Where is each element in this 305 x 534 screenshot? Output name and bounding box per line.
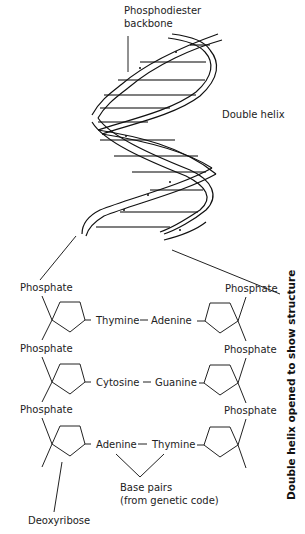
base-pairs: Thymine Adenine Cytosine Guanine Adenine… bbox=[95, 315, 219, 506]
vertical-caption: Double helix opened to show structure bbox=[285, 270, 297, 500]
right-phosphate-1: Phosphate bbox=[225, 283, 278, 294]
backbone-label-line1: Phosphodiester bbox=[124, 5, 202, 16]
double-helix-drawing bbox=[82, 34, 222, 240]
deoxyribose-ring-left-2 bbox=[52, 364, 85, 394]
dna-diagram: Phosphodiester backbone Double helix bbox=[0, 0, 305, 534]
deoxyribose-ring-left-3 bbox=[52, 426, 85, 456]
left-strand: Phosphate Phosphate Phosphate Deoxyribos… bbox=[20, 282, 91, 526]
base-left-3: Adenine bbox=[96, 439, 137, 450]
deoxyribose-label: Deoxyribose bbox=[28, 515, 90, 526]
base-right-2: Guanine bbox=[155, 377, 197, 388]
base-left-2: Cytosine bbox=[96, 377, 139, 388]
backbone-label-line2: backbone bbox=[124, 18, 173, 29]
deoxyribose-ring-left-1 bbox=[52, 302, 85, 332]
left-phosphate-2: Phosphate bbox=[20, 343, 73, 354]
deoxyribose-ring-right-1 bbox=[205, 303, 238, 333]
deoxyribose-ring-right-3 bbox=[204, 427, 238, 457]
right-strand: Phosphate Phosphate Phosphate bbox=[197, 283, 278, 468]
double-helix-label: Double helix bbox=[222, 109, 285, 120]
opening-line-left bbox=[40, 236, 76, 280]
base-right-1: Adenine bbox=[151, 315, 192, 326]
base-pairs-label-line2: (from genetic code) bbox=[120, 495, 219, 506]
right-phosphate-2: Phosphate bbox=[224, 344, 277, 355]
base-pairs-bracket bbox=[116, 454, 164, 477]
base-right-3: Thymine bbox=[151, 439, 195, 450]
base-pairs-label-line1: Base pairs bbox=[120, 482, 172, 493]
left-phosphate-1: Phosphate bbox=[20, 282, 73, 293]
deoxyribose-ring-right-2 bbox=[204, 365, 238, 395]
left-phosphate-3: Phosphate bbox=[20, 404, 73, 415]
deoxyribose-pointer-line bbox=[54, 462, 62, 512]
base-left-1: Thymine bbox=[95, 315, 139, 326]
right-phosphate-3: Phosphate bbox=[224, 405, 277, 416]
